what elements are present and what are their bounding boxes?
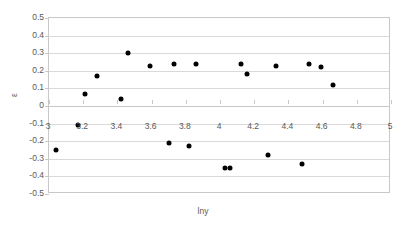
y-tick-mark	[45, 18, 49, 19]
x-tick-mark	[49, 100, 50, 104]
x-axis-title: lny	[0, 206, 406, 216]
gridline	[49, 36, 389, 37]
y-tick-label: 0.1	[32, 83, 44, 92]
x-tick-mark	[391, 100, 392, 104]
data-point	[53, 148, 58, 153]
x-tick-label: 4.6	[316, 122, 328, 131]
x-tick-mark	[83, 100, 84, 104]
data-point	[228, 165, 233, 170]
y-tick-label: 0.5	[32, 13, 44, 22]
data-point	[147, 63, 152, 68]
y-tick-mark	[45, 141, 49, 142]
x-tick-mark	[357, 100, 358, 104]
data-point	[330, 82, 335, 87]
data-point	[265, 153, 270, 158]
x-tick-mark	[152, 100, 153, 104]
scatter-chart-figure: 0.50.40.30.20.10-0.1-0.2-0.3-0.4-0.5 ε 3…	[0, 0, 406, 227]
data-point	[300, 162, 305, 167]
data-point	[245, 72, 250, 77]
gridline	[49, 141, 389, 142]
data-point	[166, 140, 171, 145]
x-axis-tick-labels: 33.23.43.63.844.24.44.64.85	[48, 122, 390, 134]
data-point	[125, 51, 130, 56]
data-point	[306, 61, 311, 66]
data-point	[82, 91, 87, 96]
x-tick-label: 5	[388, 122, 393, 131]
x-tick-mark	[186, 100, 187, 104]
data-point	[318, 65, 323, 70]
x-tick-mark	[220, 100, 221, 104]
y-tick-mark	[45, 176, 49, 177]
gridline	[49, 53, 389, 54]
y-tick-mark	[45, 88, 49, 89]
y-axis-tick-labels: 0.50.40.30.20.10-0.1-0.2-0.3-0.4-0.5	[0, 17, 44, 193]
y-tick-label: -0.3	[29, 153, 44, 162]
x-tick-mark	[323, 100, 324, 104]
y-tick-label: 0.2	[32, 65, 44, 74]
y-tick-mark	[45, 36, 49, 37]
data-point	[187, 144, 192, 149]
data-point	[94, 74, 99, 79]
y-tick-label: 0	[39, 101, 44, 110]
data-point	[118, 96, 123, 101]
x-tick-label: 3.8	[179, 122, 191, 131]
y-tick-label: 0.3	[32, 48, 44, 57]
x-tick-label: 3.6	[145, 122, 157, 131]
data-point	[171, 61, 176, 66]
x-tick-label: 4.2	[247, 122, 259, 131]
x-tick-mark	[254, 100, 255, 104]
data-point	[274, 63, 279, 68]
y-tick-mark	[45, 159, 49, 160]
y-tick-label: 0.4	[32, 30, 44, 39]
x-tick-label: 4.8	[350, 122, 362, 131]
x-tick-label: 3.2	[76, 122, 88, 131]
y-tick-label: -0.4	[29, 171, 44, 180]
y-tick-mark	[45, 53, 49, 54]
data-point	[238, 61, 243, 66]
x-tick-label: 3	[46, 122, 51, 131]
data-point	[194, 61, 199, 66]
y-axis-title: ε	[9, 93, 19, 97]
x-tick-label: 4	[217, 122, 222, 131]
x-tick-label: 3.4	[110, 122, 122, 131]
y-tick-mark	[45, 194, 49, 195]
x-tick-mark	[288, 100, 289, 104]
gridline	[49, 106, 389, 107]
gridline	[49, 176, 389, 177]
y-tick-mark	[45, 106, 49, 107]
gridline	[49, 159, 389, 160]
y-tick-label: -0.2	[29, 136, 44, 145]
y-tick-mark	[45, 71, 49, 72]
gridline	[49, 88, 389, 89]
y-tick-label: -0.5	[29, 189, 44, 198]
x-tick-label: 4.4	[281, 122, 293, 131]
gridline	[49, 71, 389, 72]
plot-area	[48, 17, 390, 193]
y-tick-label: -0.1	[29, 118, 44, 127]
